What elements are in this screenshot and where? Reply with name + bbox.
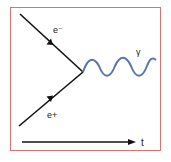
time-label: t	[141, 137, 144, 148]
positron-label: e+	[47, 110, 57, 120]
feynman-diagram: e⁻ e+ γ t	[0, 0, 171, 162]
photon-label: γ	[136, 47, 141, 57]
diagram-frame	[11, 8, 161, 151]
electron-label: e⁻	[53, 25, 63, 35]
